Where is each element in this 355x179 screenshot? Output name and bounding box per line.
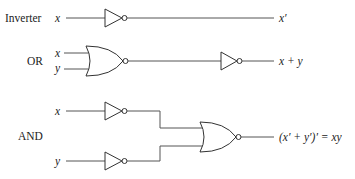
or-input-x: x [54, 47, 61, 59]
and-wire-x-to-nor [127, 111, 203, 128]
or-output-label: x + y [278, 55, 304, 68]
or-row: OR x y x + y [27, 46, 304, 76]
and-inverter-y-triangle-icon [105, 152, 122, 170]
row-label-inverter: Inverter [5, 12, 42, 24]
and-wire-y-to-nor [127, 146, 203, 161]
inverter-triangle-icon [105, 9, 122, 27]
or-input-y: y [54, 62, 61, 75]
row-label-and: AND [18, 130, 43, 142]
and-row: AND x y (x′ + y′)′ = xy [18, 102, 343, 170]
and-inverter-y-bubble-icon [122, 159, 127, 164]
and-inverter-x-bubble-icon [122, 109, 127, 114]
and-inverter-x-triangle-icon [105, 102, 122, 120]
inverter-row: Inverter x x′ [5, 9, 287, 27]
and-input-y: y [54, 155, 61, 168]
inverter-bubble-icon [122, 16, 127, 21]
or-inverter-triangle-icon [221, 52, 237, 70]
or-inverter-bubble-icon [237, 59, 242, 64]
or-nor-bubble-icon [123, 59, 128, 64]
inverter-output-label: x′ [278, 12, 287, 24]
and-nor-bubble-icon [236, 135, 241, 140]
inverter-input-x: x [54, 12, 61, 24]
row-label-or: OR [27, 55, 43, 67]
nor-logic-diagram: Inverter x x′ OR x y x + y AND x y [0, 0, 355, 179]
or-nor-gate-icon [86, 46, 123, 76]
and-input-x: x [54, 105, 61, 117]
and-output-label: (x′ + y′)′ = xy [279, 131, 343, 144]
and-nor-gate-icon [200, 122, 236, 152]
